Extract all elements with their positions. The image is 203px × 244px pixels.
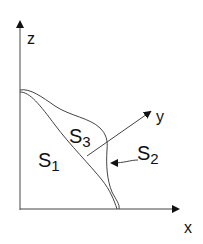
region-s1-label: S1 (38, 149, 60, 174)
region-s3-label: S3 (69, 125, 91, 150)
diagram-canvas: z x y S1 S3 S2 (0, 0, 203, 244)
x-axis-label: x (184, 219, 192, 236)
y-axis-label: y (156, 108, 164, 125)
z-axis-label: z (27, 30, 35, 47)
region-s2-label: S2 (137, 142, 159, 167)
outer-boundary-curve (20, 90, 119, 209)
s2-pointer-arrow (112, 160, 138, 163)
inner-boundary-curve (20, 92, 117, 209)
